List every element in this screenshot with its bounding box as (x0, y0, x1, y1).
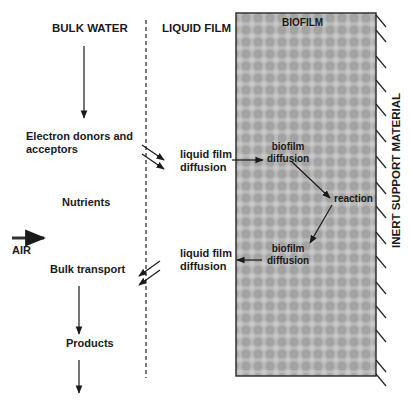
header-bulk-water: BULK WATER (52, 22, 128, 35)
label-liquid-film-diffusion-lower: liquid film diffusion (180, 247, 232, 272)
arrow-out-film-2 (139, 270, 160, 285)
label-nutrients: Nutrients (62, 196, 110, 209)
arrow-into-film-2 (142, 154, 164, 169)
label-liquid-film-diffusion-upper: liquid film diffusion (180, 148, 232, 173)
arrow-into-film-1 (142, 145, 164, 160)
header-inert-support: INERT SUPPORT MATERIAL (390, 93, 402, 248)
label-bulk-transport: Bulk transport (50, 263, 125, 276)
label-biofilm-diffusion-lower: biofilm diffusion (267, 243, 309, 266)
label-products: Products (66, 337, 114, 350)
label-electron-donors: Electron donors and acceptors (26, 130, 133, 155)
label-biofilm-diffusion-upper: biofilm diffusion (267, 141, 309, 164)
label-reaction: reaction (334, 193, 373, 205)
label-air: AIR (12, 244, 31, 257)
support-hatch-marks (376, 15, 386, 386)
arrow-out-film-1 (139, 261, 160, 276)
header-liquid-film: LIQUID FILM (162, 22, 231, 35)
header-biofilm: BIOFILM (282, 17, 323, 29)
